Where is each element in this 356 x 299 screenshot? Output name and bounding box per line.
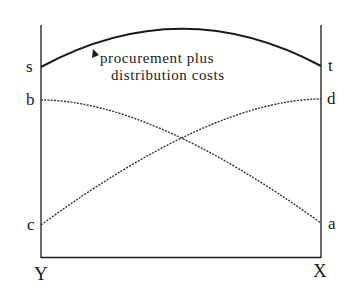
label-b: b	[26, 90, 35, 109]
cost-curve-b-a	[41, 100, 321, 223]
label-d: d	[327, 89, 336, 108]
axis-label-x: X	[313, 260, 327, 281]
annotation-line-1: procurement plus	[100, 50, 214, 66]
label-a: a	[328, 214, 336, 233]
label-s: s	[26, 57, 33, 76]
annotation-line-2: distribution costs	[111, 67, 225, 83]
arrow-icon	[92, 49, 99, 58]
label-t: t	[328, 56, 333, 75]
axis-label-y: Y	[34, 263, 48, 284]
label-c: c	[27, 215, 35, 234]
diagram-canvas: procurement plus distribution costs s b …	[0, 0, 356, 299]
cost-curve-c-d	[41, 99, 321, 225]
